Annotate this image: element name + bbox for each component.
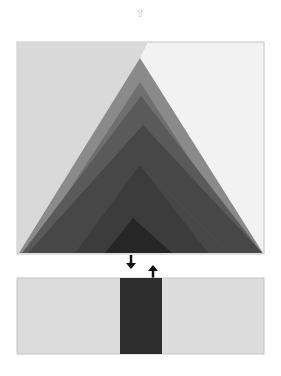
up-arrow-icon (148, 265, 158, 279)
bottom-panel (17, 278, 264, 354)
top-panel (17, 42, 264, 254)
down-arrow-icon (126, 255, 136, 269)
dark-bar (120, 278, 162, 354)
diagram-canvas (0, 0, 281, 376)
